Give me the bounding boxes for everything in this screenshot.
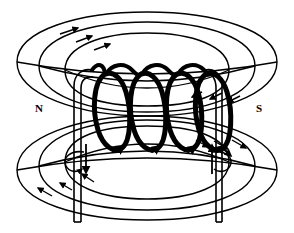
north-pole-label: N [35,102,43,114]
south-pole-label: S [256,102,262,114]
solenoid-field-diagram: N S [0,0,294,233]
diagram-canvas: N S [0,0,294,233]
